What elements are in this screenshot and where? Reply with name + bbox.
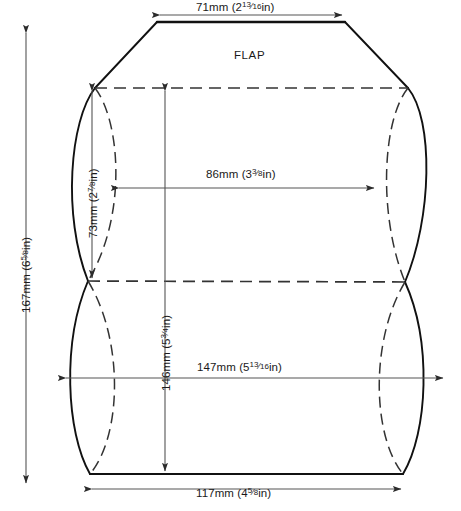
flap-right-bevel — [345, 22, 408, 88]
dim-inch-fraction-86: 3⁄8 — [252, 168, 262, 178]
flap-label: FLAP — [234, 49, 265, 61]
dim-value-146mm: 146mm — [160, 352, 172, 391]
dim-inch-whole-73: 2 — [87, 192, 99, 199]
flap-left-bevel — [95, 22, 157, 88]
dim-paren-open-86: ( — [238, 168, 245, 180]
dim-label-overall-width: 147mm (513⁄16in) — [197, 361, 282, 373]
upper-right-crease-arc — [387, 88, 408, 282]
dim-label-overall-height: 167mm (65⁄8in) — [20, 237, 32, 313]
dim-paren-open-167: ( — [20, 267, 32, 274]
dim-paren-open-147: ( — [236, 361, 243, 373]
dim-inch-whole-146: 5 — [160, 338, 172, 345]
dim-inch-fraction-147: 13⁄16 — [250, 361, 269, 371]
upper-right-arc — [405, 88, 426, 282]
dim-inch-fraction-146: 3⁄4 — [160, 328, 170, 338]
dim-paren-open-73: ( — [87, 198, 99, 205]
dim-label-bottom-width: 117mm (45⁄8in) — [196, 487, 271, 499]
dieline-diagram: FLAP 71mm (213⁄16in) 167mm (65⁄8in) 73mm… — [0, 0, 461, 511]
outline-group — [70, 22, 426, 474]
fold-lines-group — [88, 88, 408, 474]
dim-inch-whole-167: 6 — [20, 260, 32, 267]
dim-inch-fraction-71: 13⁄16 — [242, 1, 261, 11]
dim-value-86mm: 86mm — [206, 168, 238, 180]
dim-inch-fraction-167: 5⁄8 — [20, 250, 30, 260]
dim-label-inner-width: 86mm (33⁄8in) — [206, 168, 276, 180]
dim-unit-in-73: in) — [87, 168, 99, 181]
dim-inch-fraction-73: 7⁄8 — [87, 181, 97, 191]
dim-value-147mm: 147mm — [197, 361, 236, 373]
dieline-drawing — [0, 0, 461, 511]
dim-inch-fraction-117: 5⁄8 — [248, 487, 258, 497]
dim-unit-in-147: in) — [269, 361, 282, 373]
dim-paren-open: ( — [228, 1, 235, 13]
dim-unit-in-146: in) — [160, 315, 172, 328]
dim-label-top-flap-width: 71mm (213⁄16in) — [196, 1, 275, 13]
dim-unit-in-117: in) — [258, 487, 271, 499]
dim-unit-in-71: in) — [261, 1, 274, 13]
dim-unit-in-167: in) — [20, 237, 32, 250]
waist-fold-line — [88, 281, 405, 282]
dim-value-71mm: 71mm — [196, 1, 228, 13]
dim-value-117mm: 117mm — [196, 487, 234, 499]
dim-unit-in-86: in) — [263, 168, 276, 180]
dim-value-167mm: 167mm — [20, 274, 32, 313]
dim-paren-open-146: ( — [160, 345, 172, 352]
dim-label-body-height: 146mm (53⁄4in) — [160, 315, 172, 391]
dim-value-73mm: 73mm — [87, 206, 99, 238]
dim-label-flap-depth: 73mm (27⁄8in) — [87, 168, 99, 238]
dimension-lines-group — [26, 15, 443, 489]
